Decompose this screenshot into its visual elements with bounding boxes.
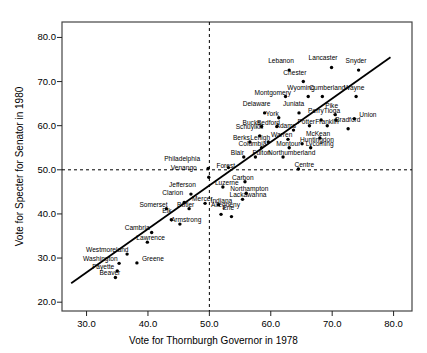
data-point [357, 68, 360, 71]
point-label: Armstrong [171, 217, 201, 224]
point-label: Delaware [243, 101, 271, 108]
point-label: Perry [308, 108, 324, 115]
point-label: Cambria [125, 225, 150, 232]
point-label: Butler [177, 202, 194, 209]
data-point [346, 127, 349, 130]
data-point [219, 213, 222, 216]
point-label: Franklin [315, 119, 338, 126]
point-label: Blair [231, 150, 244, 157]
point-label: Chester [283, 70, 306, 77]
point-label: Washington [83, 256, 118, 263]
point-label: Philadelphia [164, 156, 200, 163]
x-tick-label: 60.0 [255, 318, 287, 329]
data-point [206, 167, 209, 170]
data-point [307, 95, 310, 98]
data-point [230, 215, 233, 218]
data-point [354, 95, 357, 98]
point-label: Montour [276, 141, 300, 148]
data-point [117, 262, 120, 265]
x-tick-label: 70.0 [316, 318, 348, 329]
point-label: Snyder [346, 58, 367, 65]
x-tick-label: 40.0 [132, 318, 164, 329]
point-label: Cumberland [309, 85, 345, 92]
point-label: Juniata [283, 101, 304, 108]
plot-canvas [0, 0, 427, 353]
point-label: Clarion [162, 190, 183, 197]
data-point [135, 261, 138, 264]
x-tick-label: 50.0 [193, 318, 225, 329]
scatter-plot-figure: 30.040.050.060.070.080.020.030.040.050.0… [0, 0, 427, 353]
data-point [297, 111, 300, 114]
point-label: Greene [142, 256, 164, 263]
point-label: Venango [171, 165, 197, 172]
x-tick-label: 80.0 [378, 318, 410, 329]
point-label: Centre [294, 162, 314, 169]
point-label: Pike [325, 103, 338, 110]
point-label: Lycoming [306, 141, 334, 148]
point-label: Beaver [99, 270, 120, 277]
point-label: Schuylkill [236, 124, 263, 131]
point-label: Westmoreland [86, 247, 128, 254]
point-label: Montgomery [255, 90, 292, 97]
data-point [321, 95, 324, 98]
data-point [330, 66, 333, 69]
point-label: Forest [216, 163, 235, 170]
point-label: Lebanon [268, 58, 294, 65]
point-label: Lawrence [136, 235, 165, 242]
point-label: Lackawanna [230, 192, 267, 199]
point-label: Union [359, 112, 376, 119]
data-point [302, 80, 305, 83]
point-label: Warren [271, 132, 292, 139]
point-label: York [266, 111, 279, 118]
data-point [207, 176, 210, 179]
x-tick-label: 30.0 [71, 318, 103, 329]
x-axis-title: Vote for Thornburgh Governor in 1978 [0, 335, 427, 346]
point-label: Northumberland [268, 150, 315, 157]
point-label: Wayne [344, 85, 364, 92]
point-label: Adams [275, 123, 296, 130]
point-label: Jefferson [169, 182, 196, 189]
point-label: Mercer [192, 196, 213, 203]
y-axis-title: Vote for Specter for Senator in 1980 [14, 22, 25, 311]
point-label: Lancaster [309, 55, 338, 62]
point-label: Columbia [239, 141, 267, 148]
point-label: Allegheny [211, 202, 240, 209]
point-label: Potter [297, 119, 315, 126]
point-label: Elk [162, 208, 171, 215]
